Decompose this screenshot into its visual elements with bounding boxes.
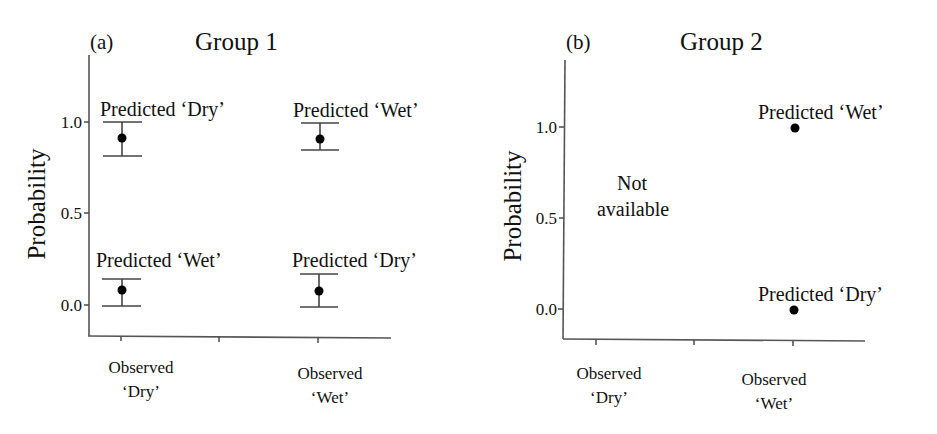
panel-a-ytick-label-0: 0.0 <box>61 296 82 315</box>
panel-b-title: Group 2 <box>680 28 763 55</box>
data-point <box>316 135 325 144</box>
panel-a-point-obswet-preddry: Predicted ‘Dry’ <box>292 249 417 307</box>
panel-a-annotation: Predicted ‘Dry’ <box>292 249 417 272</box>
panel-a-y-axis-label: Probability <box>23 148 50 260</box>
data-point <box>790 306 799 315</box>
panel-b-x-axis <box>563 339 865 341</box>
panel-a: (a) Group 1 Probability 1.0 0.5 0.0 Obse… <box>23 28 419 407</box>
data-point <box>791 124 800 133</box>
panel-b-ytick-label-05: 0.5 <box>536 209 557 228</box>
panel-a-ytick-label-05: 0.5 <box>61 204 82 223</box>
panel-b-y-axis-label: Probability <box>499 150 526 262</box>
panel-a-title: Group 1 <box>195 28 278 55</box>
panel-b-point-obswet-predwet: Predicted ‘Wet’ <box>758 101 884 133</box>
panel-a-xcat-wet-line1: Observed <box>297 364 363 383</box>
panel-b-ytick-label-0: 0.0 <box>536 300 557 319</box>
panel-a-annotation: Predicted ‘Wet’ <box>96 249 222 271</box>
panel-b-y-axis <box>563 60 565 339</box>
panel-a-ytick-label-1: 1.0 <box>61 113 82 132</box>
panel-b-annotation: Predicted ‘Dry’ <box>758 283 883 306</box>
data-point <box>315 287 324 296</box>
panel-a-label: (a) <box>90 30 113 54</box>
panel-a-point-obswet-predwet: Predicted ‘Wet’ <box>293 99 419 150</box>
panel-a-point-obsdry-preddry: Predicted ‘Dry’ <box>100 98 225 156</box>
panel-b: (b) Group 2 Probability 1.0 0.5 0.0 Obse… <box>499 28 884 413</box>
panel-b-ytick-label-1: 1.0 <box>536 118 557 137</box>
panel-b-xcat-wet-line2: ‘Wet’ <box>755 394 793 413</box>
panel-b-not-available-line2: available <box>597 198 669 220</box>
panel-b-label: (b) <box>566 30 591 54</box>
panel-a-annotation: Predicted ‘Dry’ <box>100 98 225 121</box>
panel-a-annotation: Predicted ‘Wet’ <box>293 99 419 121</box>
data-point <box>118 134 127 143</box>
panel-b-xcat-wet-line1: Observed <box>741 370 807 389</box>
panel-a-xcat-dry-line1: Observed <box>108 358 174 377</box>
panel-b-xcat-dry-line1: Observed <box>576 364 642 383</box>
figure: (a) Group 1 Probability 1.0 0.5 0.0 Obse… <box>0 0 937 434</box>
panel-b-not-available-line1: Not <box>617 172 647 194</box>
panel-b-annotation: Predicted ‘Wet’ <box>758 101 884 123</box>
data-point <box>118 286 127 295</box>
panel-b-point-obswet-preddry: Predicted ‘Dry’ <box>758 283 883 315</box>
panel-a-xcat-wet-line2: ‘Wet’ <box>311 388 349 407</box>
panel-a-x-axis <box>88 336 391 338</box>
panel-b-xcat-dry-line2: ‘Dry’ <box>590 388 628 407</box>
panel-a-xcat-dry-line2: ‘Dry’ <box>122 382 160 401</box>
panel-a-point-obsdry-predwet: Predicted ‘Wet’ <box>96 249 222 306</box>
